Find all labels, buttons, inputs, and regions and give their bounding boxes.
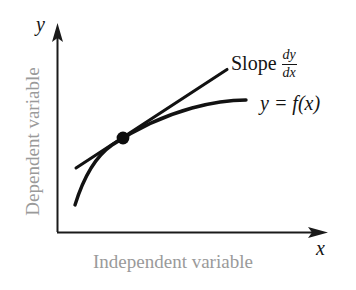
dependent-variable-axis-title: Dependent variable xyxy=(23,42,42,242)
tangency-point-marker xyxy=(117,132,130,145)
y-axis-variable-label: y xyxy=(36,14,45,34)
y-axis xyxy=(52,23,63,232)
tangent-line xyxy=(76,70,227,169)
slope-annotation-text: Slope xyxy=(231,53,277,73)
derivative-fraction: dy dx xyxy=(282,48,297,80)
independent-variable-axis-title: Independent variable xyxy=(93,252,253,271)
function-annotation: y = f(x) xyxy=(260,93,320,113)
x-axis-variable-label: x xyxy=(316,238,325,258)
x-axis xyxy=(57,227,328,238)
derivative-numerator: dy xyxy=(282,48,297,63)
derivative-slope-figure: y x Dependent variable Independent varia… xyxy=(0,0,356,290)
plot-canvas xyxy=(0,0,356,290)
slope-annotation: Slope dy dx xyxy=(231,47,297,79)
derivative-denominator: dx xyxy=(282,66,297,81)
